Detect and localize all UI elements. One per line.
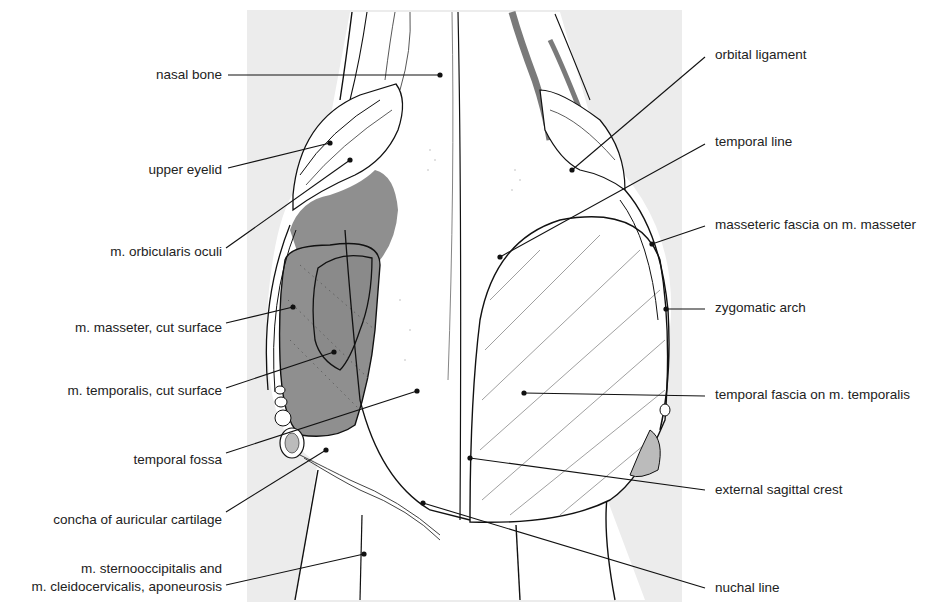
label-upper-eyelid: upper eyelid <box>148 162 222 178</box>
label-sternooccipitalis-line2: m. cleidocervicalis, aponeurosis <box>31 579 222 595</box>
leader-dot-temporal-fossa <box>414 388 419 393</box>
leader-dot-orbital-ligament <box>569 167 574 172</box>
label-temporal-fascia: temporal fascia on m. temporalis <box>715 387 910 403</box>
anatomical-diagram: nasal bone upper eyelid m. orbicularis o… <box>0 0 935 610</box>
label-nuchal-line: nuchal line <box>715 580 780 596</box>
leader-dot-nuchal-line <box>420 500 425 505</box>
leader-dot-external-sagittal-crest <box>467 455 472 460</box>
label-sternooccipitalis-line1: m. sternooccipitalis and <box>81 561 222 577</box>
leader-dot-temporal-fascia <box>521 390 526 395</box>
label-orbicularis-oculi: m. orbicularis oculi <box>110 244 222 260</box>
label-temporal-fossa: temporal fossa <box>133 452 222 468</box>
leader-dot-nasal-bone <box>437 72 442 77</box>
leader-dot-masseteric-fascia <box>649 241 654 246</box>
leader-dot-auricular-concha <box>323 447 328 452</box>
leader-dot-upper-eyelid <box>327 140 332 145</box>
leader-dot-temporal-line <box>497 254 502 259</box>
leader-dot-temporalis-cut <box>331 349 336 354</box>
label-masseteric-fascia: masseteric fascia on m. masseter <box>715 217 916 233</box>
label-temporalis-cut-surface: m. temporalis, cut surface <box>67 383 222 399</box>
label-orbital-ligament: orbital ligament <box>715 47 807 63</box>
label-temporal-line: temporal line <box>715 134 792 150</box>
leader-dot-orbicularis-oculi <box>347 157 352 162</box>
label-external-sagittal-crest: external sagittal crest <box>715 482 843 498</box>
label-zygomatic-arch: zygomatic arch <box>715 300 806 316</box>
leader-dot-masseter-cut <box>290 304 295 309</box>
label-auricular-concha: concha of auricular cartilage <box>53 512 222 528</box>
label-masseter-cut-surface: m. masseter, cut surface <box>75 320 222 336</box>
leader-dot-sternooccipitalis <box>361 551 366 556</box>
label-nasal-bone: nasal bone <box>156 67 222 83</box>
leader-dot-zygomatic-arch <box>663 306 668 311</box>
